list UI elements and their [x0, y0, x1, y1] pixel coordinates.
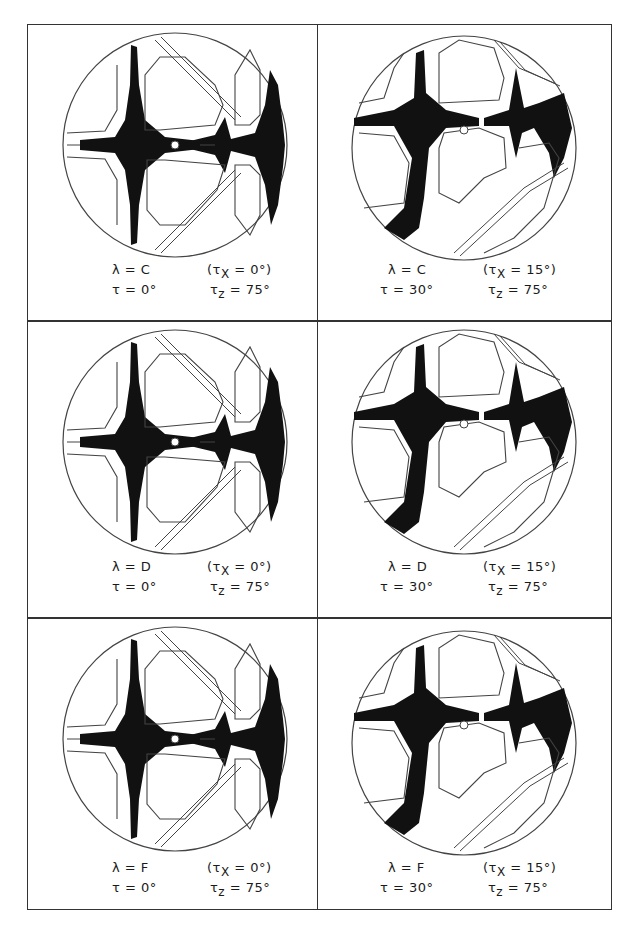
taux-label: (τX = 15°)	[483, 262, 556, 281]
panel-lambda-f-tau-0: λ = F τ = 0° (τX = 0°) τz = 75°	[27, 618, 317, 910]
tauz-label: τz = 75°	[488, 579, 548, 598]
panel-lambda-f-tau-30: λ = F τ = 30° (τX = 15°) τz = 75°	[318, 618, 608, 910]
tau-label: τ = 30°	[380, 282, 434, 297]
taux-label: (τX = 0°)	[207, 262, 272, 281]
panel-lambda-d-tau-30: λ = D τ = 30° (τX = 15°) τz = 75°	[318, 321, 608, 617]
lambda-label: λ = C	[112, 262, 150, 277]
lambda-label: λ = F	[112, 860, 149, 875]
stereogram-plot	[27, 24, 317, 264]
taux-label: (τX = 15°)	[483, 559, 556, 578]
tauz-label: τz = 75°	[488, 282, 548, 301]
tau-label: τ = 0°	[112, 282, 157, 297]
lambda-label: λ = D	[388, 559, 427, 574]
stereogram-plot	[27, 321, 317, 561]
stereogram-plot	[318, 24, 608, 264]
tauz-label: τz = 75°	[488, 880, 548, 899]
tauz-label: τz = 75°	[210, 282, 270, 301]
tau-label: τ = 30°	[380, 579, 434, 594]
tau-label: τ = 0°	[112, 880, 157, 895]
taux-label: (τX = 15°)	[483, 860, 556, 879]
taux-label: (τX = 0°)	[207, 559, 272, 578]
panel-lambda-d-tau-0: λ = D τ = 0° (τX = 0°) τz = 75°	[27, 321, 317, 617]
lambda-label: λ = D	[112, 559, 151, 574]
tauz-label: τz = 75°	[210, 579, 270, 598]
panel-lambda-c-tau-0: λ = C τ = 0° (τX = 0°) τz = 75°	[27, 24, 317, 320]
stereogram-plot	[318, 618, 608, 868]
lambda-label: λ = C	[388, 262, 426, 277]
stereogram-plot	[318, 321, 608, 561]
lambda-label: λ = F	[388, 860, 425, 875]
stereogram-plot	[27, 618, 317, 868]
panel-lambda-c-tau-30: λ = C τ = 30° (τX = 15°) τz = 75°	[318, 24, 608, 320]
tauz-label: τz = 75°	[210, 880, 270, 899]
tau-label: τ = 30°	[380, 880, 434, 895]
taux-label: (τX = 0°)	[207, 860, 272, 879]
tau-label: τ = 0°	[112, 579, 157, 594]
